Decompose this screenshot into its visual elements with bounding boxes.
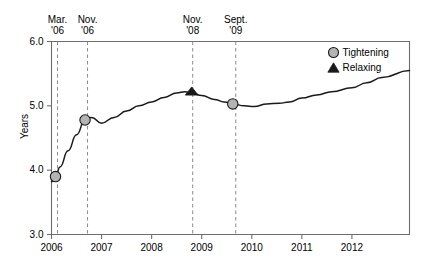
event-guide-lines [58,42,236,235]
data-line [52,70,410,181]
y-tick-label: 4.0 [18,164,44,175]
y-tick-label: 3.0 [18,229,44,240]
legend-markers [328,48,339,73]
x-tick-label: 2011 [282,242,322,253]
y-tick-label: 5.0 [18,100,44,111]
event-annotation-year: '06 [63,25,113,36]
event-annotation-month: Sept. [211,14,261,25]
x-tick-label: 2012 [332,242,372,253]
x-tick-label: 2008 [132,242,172,253]
legend-entry-label: Tightening [343,47,389,58]
x-tick-label: 2006 [32,242,72,253]
x-tick-label: 2010 [232,242,272,253]
x-tick-label: 2007 [82,242,122,253]
event-annotation: Sept.'09 [211,14,261,36]
legend-entry-label: Relaxing [343,62,382,73]
x-tick-label: 2009 [182,242,222,253]
event-annotation-year: '09 [211,25,261,36]
event-annotation-month: Nov. [63,14,113,25]
chart-figure: Years 3.04.05.06.0 200620072008200920102… [0,0,421,264]
event-annotation: Nov.'06 [63,14,113,36]
axis-ticks [47,42,352,240]
y-tick-label: 6.0 [18,36,44,47]
line-chart-svg [0,0,421,264]
